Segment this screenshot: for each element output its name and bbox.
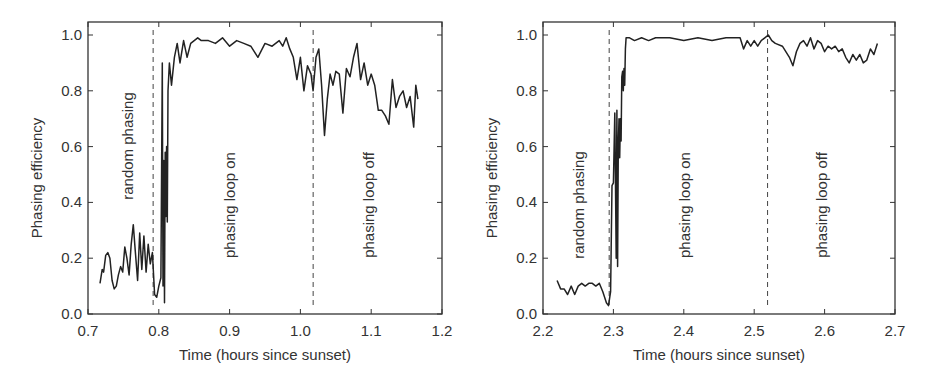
chart-right: 2.22.32.42.52.62.70.00.20.40.60.81.0rand… (483, 22, 905, 363)
x-axis-label: Time (hours since sunset) (179, 346, 351, 363)
y-tick-label: 0.6 (61, 138, 82, 155)
region-label: phasing loop off (360, 151, 377, 257)
x-tick-label: 1.2 (432, 322, 453, 339)
x-tick-label: 1.1 (361, 322, 382, 339)
y-tick-label: 0.6 (516, 138, 537, 155)
region-label: random phasing (119, 92, 136, 200)
y-tick-label: 0.2 (516, 249, 537, 266)
x-tick-label: 1.0 (290, 322, 311, 339)
y-tick-label: 0.8 (516, 82, 537, 99)
region-label: random phasing (570, 151, 587, 259)
x-tick-label: 2.2 (533, 322, 554, 339)
x-tick-label: 0.9 (219, 322, 240, 339)
x-tick-label: 0.7 (78, 322, 99, 339)
y-tick-label: 1.0 (516, 26, 537, 43)
y-tick-label: 1.0 (61, 26, 82, 43)
chart-left: 0.70.80.91.01.11.20.00.20.40.60.81.0rand… (28, 22, 452, 363)
y-tick-label: 0.8 (61, 82, 82, 99)
x-tick-label: 2.3 (603, 322, 624, 339)
y-tick-label: 0.4 (61, 193, 82, 210)
region-label: phasing loop off (813, 151, 830, 257)
region-label: phasing loop on (221, 152, 238, 258)
y-tick-label: 0.2 (61, 249, 82, 266)
x-tick-label: 2.4 (673, 322, 694, 339)
x-axis-label: Time (hours since sunset) (633, 346, 805, 363)
x-tick-label: 0.8 (148, 322, 169, 339)
x-tick-label: 2.7 (885, 322, 906, 339)
x-tick-label: 2.5 (744, 322, 765, 339)
plot-frame (543, 22, 895, 314)
plot-frame (88, 22, 442, 314)
y-axis-label: Phasing efficiency (28, 117, 45, 238)
y-axis-label: Phasing efficiency (483, 117, 500, 238)
y-tick-label: 0.4 (516, 193, 537, 210)
y-tick-label: 0.0 (516, 305, 537, 322)
region-label: phasing loop on (676, 152, 693, 258)
figure: 0.70.80.91.01.11.20.00.20.40.60.81.0rand… (0, 0, 941, 388)
x-tick-label: 2.6 (814, 322, 835, 339)
y-tick-label: 0.0 (61, 305, 82, 322)
